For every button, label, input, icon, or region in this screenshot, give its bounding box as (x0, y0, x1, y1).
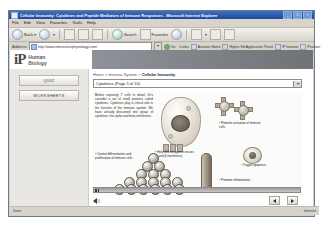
media-controls: )) (93, 187, 298, 205)
window-title: Cellular Immunity: Cytokines and Peptide… (20, 13, 283, 18)
home-button[interactable] (92, 29, 103, 40)
link-higher-ed-portal[interactable]: Higher Ed Application Portal (222, 44, 273, 50)
stop-button[interactable] (64, 29, 75, 40)
web-page-content: iP Human Biology QUIZ WORKSHEETS Home (10, 50, 313, 214)
breadcrumb-current: Cellular Immunity (142, 72, 176, 77)
back-arrow-icon (12, 29, 23, 40)
page-select[interactable]: Cytokines (Page 5 of 10) ▾ (93, 79, 302, 88)
address-value: http://www.interactivephysiology.com/ (38, 45, 151, 49)
window-controls[interactable]: _ □ × (283, 11, 312, 19)
label-trigger-apoptosis: Trigger apoptosis (241, 164, 271, 168)
back-button[interactable]: Back ▾ (12, 29, 36, 40)
refresh-button[interactable] (78, 29, 89, 40)
label-control-differentiation: Control differentiation and proliferatio… (95, 153, 133, 161)
breadcrumb: Home > Immune System > Cellular Immunity (93, 72, 309, 77)
history-dropdown-icon[interactable]: ▾ (205, 33, 207, 37)
site-header: iP Human Biology (10, 50, 313, 69)
sound-waves: )) (98, 198, 101, 203)
search-label: Search (124, 32, 137, 37)
site-logo[interactable]: iP Human Biology (10, 50, 92, 69)
progress-scrubber[interactable] (93, 187, 301, 193)
mail-button[interactable] (210, 29, 221, 40)
media-button[interactable] (171, 29, 182, 40)
menu-item-edit[interactable]: Edit (24, 19, 31, 27)
previous-arrow-icon (273, 199, 276, 203)
forward-dropdown-icon[interactable]: ▾ (53, 33, 55, 37)
screenshot-root: Cellular Immunity: Cytokines and Peptide… (0, 0, 321, 233)
link-pearson-web-mail[interactable]: Pearson Web Mail (300, 44, 321, 50)
history-button[interactable] (191, 29, 202, 40)
link-label: Higher Ed Application Portal (229, 45, 273, 49)
breadcrumb-home[interactable]: Home (93, 72, 104, 77)
inflamed-tissue-illustration (201, 153, 212, 191)
label-promote-inflammation: Promote inflammation (219, 179, 251, 183)
minimize-button[interactable]: _ (283, 11, 292, 19)
sidebar-item-quiz[interactable]: QUIZ (19, 75, 79, 86)
logo-mark: iP (14, 52, 25, 67)
left-sidebar: QUIZ WORKSHEETS (10, 69, 89, 214)
pause-icon[interactable] (95, 189, 97, 192)
window-title-bar: Cellular Immunity: Cytokines and Peptide… (9, 11, 314, 19)
search-button[interactable]: Search (112, 29, 137, 40)
cytokine-molecule (215, 97, 232, 114)
internet-explorer-window: Cellular Immunity: Cytokines and Peptide… (8, 10, 315, 217)
chevron-down-icon[interactable]: ▾ (293, 81, 301, 87)
link-icon (275, 44, 281, 50)
status-bar: Done Internet (10, 206, 319, 215)
print-button[interactable] (224, 29, 235, 40)
cell-nucleus (171, 115, 190, 132)
link-icon (191, 44, 197, 50)
logo-wordmark: Human Biology (28, 54, 46, 66)
toolbar-separator (59, 30, 60, 39)
apoptosis-cell-illustration (243, 147, 262, 164)
go-icon (164, 44, 170, 50)
favorites-button[interactable]: Favorites (140, 29, 168, 40)
link-activate-home[interactable]: Activate Home (191, 44, 221, 50)
speaker-cone (93, 198, 97, 204)
molecule-core (238, 105, 249, 116)
close-button[interactable]: × (303, 11, 312, 19)
back-dropdown-icon[interactable]: ▾ (34, 33, 36, 37)
ie-logo-icon (11, 12, 18, 19)
menu-item-favorites[interactable]: Favorites (50, 19, 67, 27)
breadcrumb-section[interactable]: Immune System (108, 72, 137, 77)
page-navigation (269, 196, 298, 205)
cell-granule (168, 134, 173, 139)
page-select-value: Cytokines (Page 5 of 10) (96, 81, 140, 86)
link-label: Pearson Web Mail (307, 45, 321, 49)
next-arrow-icon (291, 199, 294, 203)
page-icon (31, 44, 37, 50)
next-page-button[interactable] (287, 196, 298, 205)
menu-item-help[interactable]: Help (87, 19, 96, 27)
go-button[interactable]: Go (164, 44, 176, 50)
menu-bar: File Edit View Favorites Tools Help (9, 19, 314, 28)
forward-button[interactable] (39, 29, 50, 40)
molecule-core (219, 101, 230, 112)
immune-cell-illustration (161, 97, 201, 147)
toolbar-separator-2 (107, 30, 108, 39)
link-label: IP Intranet (282, 45, 298, 49)
menu-item-tools[interactable]: Tools (72, 19, 82, 27)
menu-item-file[interactable]: File (12, 19, 19, 27)
previous-page-button[interactable] (269, 196, 280, 205)
links-label: Links (179, 44, 188, 49)
toolbar-separator-3 (186, 30, 187, 39)
logo-line-2: Biology (28, 60, 46, 66)
link-ip-intranet[interactable]: IP Intranet (275, 44, 298, 50)
cytokine-molecule (234, 101, 251, 118)
link-label: Activate Home (198, 45, 221, 49)
maximize-button[interactable]: □ (293, 11, 302, 19)
cell-granule (186, 106, 191, 111)
go-label: Go (171, 45, 176, 49)
animation-stage: Before exposing T cells in detail, let's… (93, 91, 303, 196)
header-banner (92, 50, 313, 69)
star-icon (140, 29, 151, 40)
playback-control-row: )) (93, 196, 298, 205)
status-text: Done (13, 209, 22, 213)
menu-item-view[interactable]: View (36, 19, 45, 27)
volume-icon[interactable]: )) (93, 197, 101, 204)
sidebar-item-worksheets[interactable]: WORKSHEETS (19, 90, 79, 101)
stop-icon[interactable] (98, 189, 100, 192)
lesson-paragraph: Before exposing T cells in detail, let's… (95, 93, 153, 118)
page-body: QUIZ WORKSHEETS Home > Immune System > C… (10, 69, 313, 214)
